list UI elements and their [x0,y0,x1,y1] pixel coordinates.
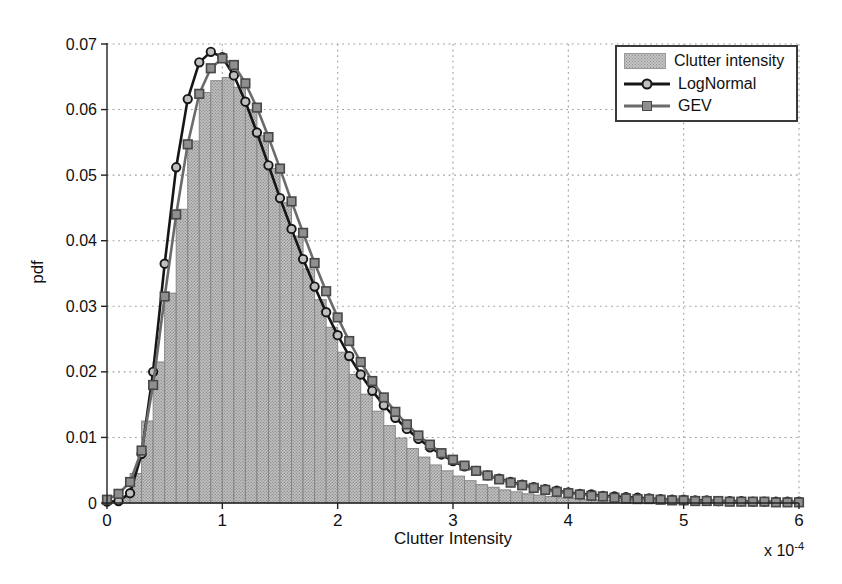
offset-base: x 10 [764,542,794,559]
x-tick-label: 6 [794,511,803,530]
y-tick-label: 0.01 [66,429,97,446]
x-tick-label: 1 [218,511,227,530]
x-tick-label: 2 [333,511,342,530]
figure: 00.010.020.030.040.050.060.070123456 pdf… [0,0,842,584]
y-tick-label: 0.04 [66,232,97,249]
y-tick-label: 0 [88,495,97,512]
x-tick-label: 5 [679,511,688,530]
y-axis-label: pdf [28,260,48,284]
histogram-bars [107,77,799,503]
y-tick-label: 0.02 [66,363,97,380]
legend-label: Clutter intensity [674,52,784,70]
x-tick-label: 0 [102,511,111,530]
circle-marker-icon [642,78,653,89]
legend-label: GEV [678,97,712,115]
square-marker-icon [642,101,652,111]
offset-exponent: -4 [794,540,804,552]
legend-item-clutter-intensity: Clutter intensity [624,50,789,72]
x-axis-label: Clutter Intensity [394,529,512,549]
y-tick-label: 0.06 [66,101,97,118]
legend-item-lognormal: LogNormal [624,73,789,95]
legend-item-gev: GEV [624,95,789,117]
legend-label: LogNormal [678,75,756,93]
x-axis-offset-label: x 10-4 [764,540,804,560]
gev-line-swatch-icon [624,98,670,114]
x-tick-label: 4 [564,511,573,530]
lognormal-line-swatch-icon [624,76,670,92]
y-tick-label: 0.03 [66,298,97,315]
y-tick-label: 0.07 [66,36,97,53]
legend: Clutter intensity LogNormal GEV [615,45,798,122]
y-tick-label: 0.05 [66,167,97,184]
x-tick-label: 3 [448,511,457,530]
histogram-swatch-icon [624,53,666,69]
